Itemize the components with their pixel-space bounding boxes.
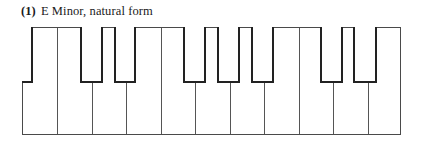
piano-keyboard-diagram: [22, 27, 401, 135]
black-key: [80, 27, 103, 83]
black-key: [22, 27, 33, 83]
exercise-number: (1): [21, 4, 36, 18]
exercise-label: E Minor, natural form: [41, 4, 153, 18]
black-key: [320, 27, 343, 83]
black-key: [114, 27, 136, 83]
black-key: [353, 27, 377, 83]
black-key: [251, 27, 274, 83]
exercise-title: (1)E Minor, natural form: [21, 4, 153, 19]
black-key: [183, 27, 206, 83]
black-key: [217, 27, 240, 83]
